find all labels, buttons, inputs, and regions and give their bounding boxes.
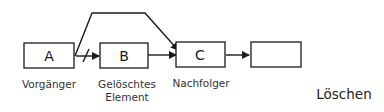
caption-vorgaenger: Vorgänger bbox=[22, 78, 77, 90]
caption-geloeschtes: Gelöschtes bbox=[98, 78, 156, 90]
caption-element: Element bbox=[105, 91, 148, 103]
node-c-label: C bbox=[195, 47, 205, 63]
node-c: C bbox=[176, 42, 225, 67]
caption-nachfolger: Nachfolger bbox=[172, 77, 230, 89]
node-a: A bbox=[24, 43, 74, 68]
diagram-title: Löschen bbox=[316, 86, 371, 102]
node-b-label: B bbox=[119, 48, 129, 64]
node-d bbox=[251, 42, 301, 67]
node-b: B bbox=[100, 43, 148, 68]
node-a-label: A bbox=[44, 48, 54, 64]
linked-list-deletion-diagram: A B C Vorgänger Gelöschtes Element Nachf… bbox=[0, 0, 384, 112]
